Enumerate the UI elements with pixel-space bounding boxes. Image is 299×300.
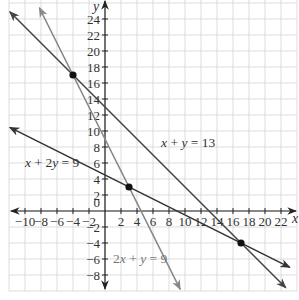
x-tick-label: 4 bbox=[134, 214, 141, 229]
x-tick-label: −10 bbox=[15, 214, 35, 229]
equation-lines bbox=[10, 8, 290, 290]
x-axis-label: x bbox=[291, 211, 299, 226]
equation-label: x + 2y = 9 bbox=[24, 155, 80, 170]
y-tick-label: 14 bbox=[87, 92, 101, 107]
x-tick-label: 20 bbox=[259, 214, 272, 229]
axes: xy bbox=[11, 0, 299, 289]
y-tick-label: −6 bbox=[86, 252, 100, 267]
y-tick-label: 8 bbox=[94, 140, 101, 155]
intersection-point bbox=[125, 183, 132, 190]
coordinate-plane: xy −10−8−6−4−2246810121416182022−8−6−4−2… bbox=[0, 0, 299, 300]
x-tick-label: 16 bbox=[227, 214, 241, 229]
equation-labels: x + y = 132x + y = 9x + 2y = 9 bbox=[24, 135, 216, 266]
y-tick-label: −4 bbox=[86, 236, 100, 251]
x-tick-label: 8 bbox=[166, 214, 173, 229]
y-tick-label: 20 bbox=[87, 44, 100, 59]
y-tick-label: −2 bbox=[86, 220, 100, 235]
y-tick-label: 6 bbox=[94, 156, 101, 171]
x-tick-label: 10 bbox=[179, 214, 192, 229]
intersection-point bbox=[69, 71, 76, 78]
line-x-y-13 bbox=[10, 12, 286, 288]
equation-label: 2x + y = 9 bbox=[113, 251, 168, 266]
x-tick-label: 18 bbox=[243, 214, 256, 229]
line-2x-y-9 bbox=[39, 8, 180, 290]
x-tick-label: 14 bbox=[211, 214, 225, 229]
x-tick-label: 2 bbox=[118, 214, 125, 229]
y-tick-label: 4 bbox=[94, 172, 101, 187]
x-tick-label: −4 bbox=[66, 214, 80, 229]
y-tick-label: 24 bbox=[87, 12, 101, 27]
y-tick-label: 22 bbox=[87, 28, 100, 43]
y-tick-label: 16 bbox=[87, 76, 101, 91]
line-x-2y-9 bbox=[10, 127, 290, 267]
x-tick-label: −8 bbox=[34, 214, 48, 229]
x-tick-label: 22 bbox=[275, 214, 288, 229]
x-tick-label: −6 bbox=[50, 214, 64, 229]
grid-lines bbox=[9, 0, 297, 291]
y-tick-label: 18 bbox=[87, 60, 100, 75]
equation-label: x + y = 13 bbox=[160, 135, 216, 150]
intersection-point bbox=[237, 239, 244, 246]
origin-label: 0 bbox=[94, 195, 101, 210]
x-tick-label: 6 bbox=[150, 214, 157, 229]
y-tick-label: −8 bbox=[86, 268, 100, 283]
